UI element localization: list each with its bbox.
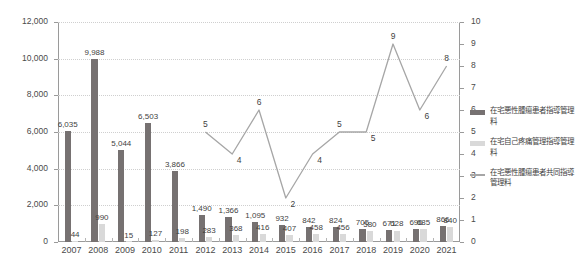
- chart-legend: 在宅悪性腫瘍患者指導管理料在宅自己疼痛管理指導管理料在宅悪性腫瘍患者共同指導管理…: [470, 106, 578, 198]
- legend-item[interactable]: 在宅悪性腫瘍患者共同指導管理料: [470, 168, 578, 190]
- line-value-label: 6: [249, 98, 269, 107]
- legend-bar-swatch-icon: [470, 141, 485, 146]
- y-axis-right-tick: [460, 44, 464, 45]
- line-series: [58, 22, 460, 242]
- legend-item-label: 在宅悪性腫瘍患者共同指導管理料: [490, 168, 578, 190]
- y-axis-left-tick: [54, 242, 58, 243]
- y-axis-right-tick: [460, 242, 464, 243]
- y-axis-left-tick-label: 10,000: [22, 54, 48, 63]
- y-axis-right-tick: [460, 110, 464, 111]
- line-value-label: 5: [329, 120, 349, 129]
- y-axis-right-tick-label: 9: [471, 39, 476, 48]
- line-value-label: 4: [310, 156, 330, 165]
- line-value-label: 2: [283, 200, 303, 209]
- legend-item[interactable]: 在宅自己疼痛管理指導管理料: [470, 137, 578, 159]
- y-axis-left-tick-label: 0: [43, 237, 48, 246]
- x-axis-labels: 2007200820092010201120122013201420152016…: [58, 246, 460, 260]
- line-value-label: 9: [383, 32, 403, 41]
- y-axis-right-tick-label: 0: [471, 237, 476, 246]
- line-value-label: 5: [195, 120, 215, 129]
- y-axis-right-tick: [460, 132, 464, 133]
- y-axis-right-tick: [460, 154, 464, 155]
- legend-item-label: 在宅悪性腫瘍患者指導管理料: [490, 106, 578, 128]
- y-axis-right-tick-label: 8: [471, 61, 476, 70]
- y-axis-right-tick: [460, 22, 464, 23]
- y-axis-right-tick: [460, 88, 464, 89]
- y-axis-left-tick-label: 8,000: [27, 90, 48, 99]
- y-axis-right-tick-label: 7: [471, 83, 476, 92]
- y-axis-left-tick-label: 12,000: [22, 17, 48, 26]
- y-axis-left-tick-label: 2,000: [27, 200, 48, 209]
- line-value-label: 6: [417, 112, 437, 121]
- y-axis-right-tick: [460, 176, 464, 177]
- y-axis-left: 02,0004,0006,0008,00010,00012,000: [0, 22, 54, 242]
- legend-line-swatch-icon: [470, 174, 485, 176]
- combo-chart: 02,0004,0006,0008,00010,00012,000 012345…: [0, 0, 579, 273]
- line-value-label: 4: [229, 156, 249, 165]
- y-axis-left-tick-label: 6,000: [27, 127, 48, 136]
- y-axis-left-tick-label: 4,000: [27, 164, 48, 173]
- legend-item[interactable]: 在宅悪性腫瘍患者指導管理料: [470, 106, 578, 128]
- x-axis-tick-label: 2021: [431, 246, 463, 255]
- legend-bar-swatch-icon: [470, 110, 485, 115]
- y-axis-right-tick: [460, 198, 464, 199]
- line-value-label: 5: [363, 134, 383, 143]
- y-axis-right-tick-label: 1: [471, 215, 476, 224]
- plot-area: 6,035449,9889905,044156,5031273,8661981,…: [58, 22, 460, 242]
- y-axis-right-tick: [460, 66, 464, 67]
- line-value-label: 8: [437, 54, 457, 63]
- legend-item-label: 在宅自己疼痛管理指導管理料: [490, 137, 578, 159]
- y-axis-right-tick-label: 10: [471, 17, 480, 26]
